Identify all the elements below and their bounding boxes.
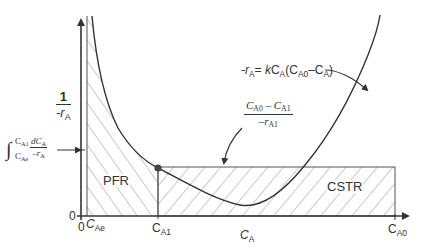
cstr-den-sub: A1 bbox=[268, 120, 277, 129]
y-origin-label: 0 bbox=[69, 210, 76, 222]
tick-label-cae: CAe bbox=[86, 218, 105, 232]
x-axis-label-main: C bbox=[240, 228, 249, 242]
cstr-num-b-sub: A1 bbox=[281, 104, 290, 113]
cstr-label: CSTR bbox=[326, 180, 363, 193]
rate-law-prefix: -r bbox=[241, 63, 249, 77]
integral-den-sub: A bbox=[40, 152, 45, 159]
integral-num-sub: A bbox=[42, 140, 47, 147]
y-axis-label-num: 1 bbox=[56, 90, 71, 105]
rate-law-paren-open: (C bbox=[285, 63, 298, 77]
tick-label-ca1: CA1 bbox=[152, 222, 171, 236]
y-axis-label: 1 -rA bbox=[56, 90, 71, 122]
x-origin-label: 0 bbox=[78, 221, 85, 233]
cstr-fraction-num: CA0 – CA1 bbox=[244, 100, 293, 115]
rate-law-label: -rA= kCA(CA0–CA) bbox=[241, 64, 333, 78]
cstr-num-a-sub: A0 bbox=[253, 104, 262, 113]
integral-den: –rA bbox=[30, 148, 47, 159]
cstr-den: –r bbox=[259, 115, 269, 127]
cstr-fraction-label: CA0 – CA1 –rA1 bbox=[244, 100, 293, 129]
tick-cae-sub: Ae bbox=[95, 223, 105, 233]
rate-law-paren-close: ) bbox=[329, 63, 333, 77]
integral-lower-sub: Ae bbox=[21, 155, 28, 162]
y-axis-label-den-sub: A bbox=[65, 112, 71, 122]
y-axis-label-den: -rA bbox=[56, 105, 71, 122]
tick-ca1-sub: A1 bbox=[161, 227, 171, 237]
tick-cae-main: C bbox=[86, 217, 95, 231]
tick-ca1-main: C bbox=[152, 221, 161, 235]
integral-fraction: dCA –rA bbox=[30, 137, 47, 159]
integral-lower: CAe bbox=[15, 152, 28, 162]
cstr-fraction-arrow bbox=[224, 128, 242, 163]
tick-label-ca0: CA0 bbox=[388, 223, 407, 237]
integral-upper: CA1 bbox=[15, 137, 29, 147]
rate-law-minus: –C bbox=[308, 63, 323, 77]
cstr-fraction-den: –rA1 bbox=[244, 115, 293, 129]
integral-symbol: ∫ bbox=[6, 137, 11, 161]
y-axis-label-den-text: -r bbox=[56, 105, 65, 120]
integral-num-text: dC bbox=[31, 136, 42, 146]
tick-ca0-main: C bbox=[388, 222, 397, 236]
tick-ca0-sub: A0 bbox=[397, 228, 407, 238]
rate-law-eq: = bbox=[255, 63, 265, 77]
integral-num: dCA bbox=[30, 137, 47, 148]
rate-law-c1: C bbox=[271, 63, 280, 77]
x-axis-label-sub: A bbox=[249, 234, 255, 244]
operating-point bbox=[154, 164, 161, 171]
pfr-label: PFR bbox=[102, 174, 130, 187]
x-axis-label: CA bbox=[240, 229, 254, 243]
levenspiel-diagram bbox=[0, 0, 428, 252]
rate-law-c2-sub: A0 bbox=[298, 69, 308, 79]
cstr-num-minus: – C bbox=[263, 99, 281, 111]
integral-upper-sub: A1 bbox=[21, 140, 29, 147]
